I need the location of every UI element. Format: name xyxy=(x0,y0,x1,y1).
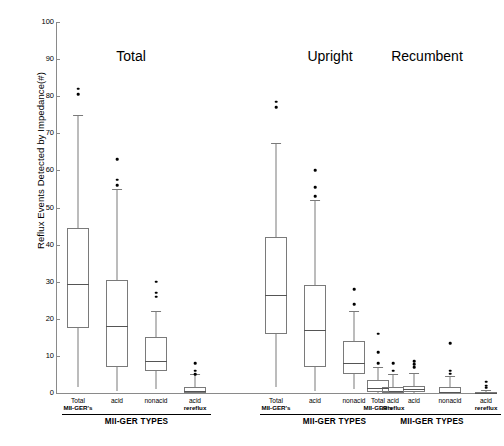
y-axis-tick-label: 10 xyxy=(40,352,54,360)
y-axis-tick-label: 100 xyxy=(40,18,54,26)
outlier-point xyxy=(116,178,119,181)
outlier-point xyxy=(194,369,197,372)
x-axis-label-line1: acid xyxy=(297,397,334,404)
outlier-point xyxy=(155,280,158,283)
whisker-lower xyxy=(378,392,379,393)
whisker-upper xyxy=(354,311,355,341)
y-axis-title: Reflux Events Detected by Impedance(#) xyxy=(35,31,46,291)
median-line xyxy=(343,363,365,364)
box-iqr xyxy=(367,380,389,392)
y-axis-tick-mark xyxy=(56,282,60,283)
y-axis-tick-mark xyxy=(56,319,60,320)
outlier-point xyxy=(194,373,197,376)
x-axis-label: acid xyxy=(99,397,136,404)
box-plot xyxy=(106,0,128,446)
x-axis-label-line1: Total xyxy=(361,397,395,404)
outlier-point xyxy=(314,195,317,198)
median-line xyxy=(304,330,326,331)
whisker-upper xyxy=(78,115,79,228)
whisker-upper xyxy=(156,311,157,337)
box-plot xyxy=(184,0,206,446)
whisker-upper xyxy=(450,376,451,387)
x-axis-label-line1: nonacid xyxy=(138,397,175,404)
whisker-upper xyxy=(315,200,316,285)
median-line xyxy=(106,326,128,327)
whisker-cap-upper xyxy=(349,311,359,312)
median-line xyxy=(439,392,461,393)
whisker-upper xyxy=(393,374,394,387)
x-axis-label-line1: acid xyxy=(177,397,214,404)
x-axis-label: acidrereflux xyxy=(469,397,503,412)
y-axis-tick-label: 30 xyxy=(40,278,54,286)
whisker-cap-upper xyxy=(445,376,455,377)
x-axis-label-line2: MII-GER's xyxy=(361,404,395,411)
y-axis-tick-mark xyxy=(56,245,60,246)
outlier-point xyxy=(392,369,395,372)
outlier-point xyxy=(155,292,158,295)
whisker-cap-upper xyxy=(310,200,320,201)
outlier-point xyxy=(116,158,119,161)
whisker-lower xyxy=(276,334,277,388)
outlier-point xyxy=(77,87,80,90)
box-plot xyxy=(475,0,497,446)
y-axis-tick-mark xyxy=(56,356,60,357)
y-axis-tick-mark xyxy=(56,393,60,394)
median-line xyxy=(265,295,287,296)
box-iqr xyxy=(145,337,167,370)
x-axis-label-line1: acid xyxy=(469,397,503,404)
outlier-point xyxy=(155,295,158,298)
y-axis-tick-mark xyxy=(56,96,60,97)
x-axis-label: acid xyxy=(297,397,334,404)
whisker-lower xyxy=(414,392,415,393)
median-line xyxy=(145,361,167,362)
outlier-point xyxy=(314,186,317,189)
y-axis-tick-label: 40 xyxy=(40,241,54,249)
box-plot xyxy=(343,0,365,446)
outlier-point xyxy=(392,362,395,365)
x-axis-title: MII-GER TYPES xyxy=(400,417,464,426)
whisker-upper xyxy=(276,143,277,238)
x-axis-label-line1: acid xyxy=(99,397,136,404)
box-iqr xyxy=(343,341,365,374)
x-axis-label: nonacid xyxy=(433,397,467,404)
y-axis-tick-mark xyxy=(56,59,60,60)
whisker-cap-upper xyxy=(271,143,281,144)
box-iqr xyxy=(265,237,287,333)
outlier-point xyxy=(275,106,278,109)
x-axis-label-line1: acid xyxy=(397,397,431,404)
y-axis-tick-label: 90 xyxy=(40,55,54,63)
outlier-point xyxy=(377,362,380,365)
whisker-lower xyxy=(117,367,118,391)
y-axis-tick-label: 20 xyxy=(40,315,54,323)
box-plot xyxy=(145,0,167,446)
outlier-point xyxy=(377,332,380,335)
x-axis-label-line2: rereflux xyxy=(469,404,503,411)
box-plot xyxy=(367,0,389,446)
whisker-lower xyxy=(354,374,355,389)
whisker-lower xyxy=(315,367,316,391)
whisker-cap-upper xyxy=(73,115,83,116)
y-axis-tick-mark xyxy=(56,133,60,134)
median-line xyxy=(184,391,206,392)
box-plot xyxy=(439,0,461,446)
box-plot xyxy=(265,0,287,446)
whisker-cap-upper xyxy=(373,367,383,368)
box-plot xyxy=(403,0,425,446)
whisker-upper xyxy=(378,367,379,380)
y-axis-tick-label: 60 xyxy=(40,167,54,175)
median-line xyxy=(367,388,389,389)
y-axis-tick-label: 50 xyxy=(40,204,54,212)
median-line xyxy=(475,393,497,394)
outlier-point xyxy=(275,100,278,103)
whisker-cap-upper xyxy=(409,373,419,374)
box-iqr xyxy=(304,285,326,367)
x-axis-label: TotalMII-GER's xyxy=(361,397,395,412)
whisker-cap-upper xyxy=(388,374,398,375)
x-axis-title: MII-GER TYPES xyxy=(105,417,169,426)
y-axis-tick-mark xyxy=(56,208,60,209)
x-axis-label-line2: MII-GER's xyxy=(258,404,295,411)
whisker-upper xyxy=(414,373,415,386)
whisker-cap-upper xyxy=(112,189,122,190)
x-axis-title: MII-GER TYPES xyxy=(303,417,367,426)
x-axis-label-line2: rereflux xyxy=(177,404,214,411)
